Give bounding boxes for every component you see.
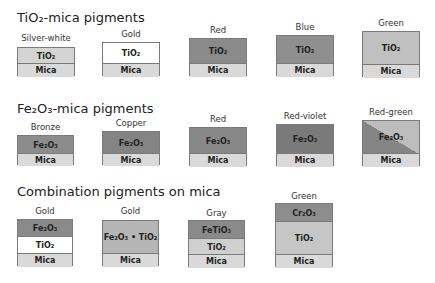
layer-coating: Fe₂O₃	[277, 125, 333, 154]
layer-label: Fe₂O₃	[293, 135, 317, 144]
layer-coating: Fe₂O₃	[190, 128, 246, 154]
layer-label: Mica	[208, 156, 229, 165]
layer-mica: Mica	[103, 253, 158, 267]
pigment-stack: Cr₂O₃TiO₂Mica	[275, 203, 333, 267]
layer-label: TiO₂	[122, 49, 141, 58]
layer-label: Mica	[121, 66, 142, 75]
layer-label: Mica	[208, 66, 229, 75]
pigment-label: Red-violet	[265, 111, 345, 121]
layer-coating: TiO₂	[276, 221, 332, 255]
pigment-stack: TiO₂Mica	[276, 35, 334, 76]
layer-mica: Mica	[276, 254, 332, 268]
pigment-stack: Fe₂O₃Mica	[189, 127, 247, 166]
layer-label: TiO₂	[296, 46, 315, 55]
layer-mica: Mica	[103, 153, 159, 166]
pigment-stack: Fe₂O₃Mica	[276, 124, 334, 166]
section-title-tio2-mica: TiO₂-mica pigments	[17, 10, 145, 25]
layer-coating: TiO₂	[18, 48, 74, 64]
layer-label: TiO₂	[207, 243, 226, 252]
pigment-stack: TiO₂Mica	[17, 47, 75, 76]
section-title-fe2o3-mica: Fe₂O₃-mica pigments	[17, 101, 154, 116]
pigment-label: Gold	[5, 206, 85, 216]
layer-label: Mica	[381, 156, 402, 165]
layer-mica: Mica	[18, 63, 74, 77]
layer-label: Mica	[120, 256, 141, 265]
layer-label: Mica	[121, 156, 142, 165]
pigment-label: Copper	[91, 118, 171, 128]
layer-label: Cr₂O₃	[292, 209, 316, 218]
layer-coating: TiO₂	[277, 36, 333, 64]
layer-mica: Mica	[189, 254, 244, 268]
pigment-label: Gold	[91, 206, 171, 216]
layer-label: Mica	[206, 257, 227, 266]
layer-coating: TiO₂	[190, 39, 246, 64]
layer-coating: Fe₂O₃	[103, 132, 159, 154]
layer-coating: Fe₂O₃ • TiO₂	[103, 221, 158, 254]
pigment-label: Silver-white	[6, 33, 86, 43]
pigment-label: Red	[178, 25, 258, 35]
layer-coating: Fe₂O₃	[363, 121, 419, 154]
layer-coating: TiO₂	[189, 238, 244, 255]
pigment-stack: Fe₂O₃Mica	[102, 131, 160, 165]
layer-mica: Mica	[103, 63, 159, 77]
layer-label: Mica	[381, 67, 402, 76]
layer-label: TiO₂	[209, 47, 228, 56]
pigment-stack: FeTiO₃TiO₂Mica	[188, 220, 245, 267]
pigment-stack: Fe₂O₃Mica	[17, 135, 74, 165]
layer-mica: Mica	[190, 63, 246, 77]
layer-mica: Mica	[18, 153, 73, 166]
pigment-stack: TiO₂Mica	[362, 31, 420, 77]
layer-label: Fe₂O₃	[33, 141, 57, 150]
layer-coating: FeTiO₃	[189, 221, 244, 239]
layer-label: Fe₂O₃	[206, 137, 230, 146]
layer-label: Mica	[295, 156, 316, 165]
layer-coating: TiO₂	[363, 32, 419, 65]
layer-label: TiO₂	[37, 52, 56, 61]
pigment-label: Gold	[91, 29, 171, 39]
layer-coating: Fe₂O₃	[18, 136, 73, 154]
layer-coating: TiO₂	[18, 236, 72, 254]
layer-label: Fe₂O₃	[379, 133, 403, 142]
pigment-stack: TiO₂Mica	[102, 42, 160, 76]
section-title-combination: Combination pigments on mica	[17, 184, 221, 199]
layer-label: Fe₂O₃ • TiO₂	[104, 233, 158, 242]
layer-label: Mica	[295, 66, 316, 75]
pigment-stack: Fe₂O₃TiO₂Mica	[17, 219, 73, 266]
layer-coating: Fe₂O₃	[18, 220, 72, 237]
layer-coating: TiO₂	[103, 43, 159, 64]
layer-label: Fe₂O₃	[33, 224, 57, 233]
layer-label: FeTiO₃	[202, 226, 231, 235]
layer-label: Fe₂O₃	[119, 139, 143, 148]
layer-label: TiO₂	[382, 44, 401, 53]
layer-label: Mica	[35, 256, 56, 265]
pigment-stack: Fe₂O₃Mica	[362, 120, 420, 166]
layer-label: Mica	[35, 156, 56, 165]
layer-mica: Mica	[277, 63, 333, 77]
layer-mica: Mica	[363, 64, 419, 78]
layer-mica: Mica	[18, 253, 72, 267]
pigment-label: Blue	[265, 22, 345, 32]
layer-mica: Mica	[363, 153, 419, 167]
pigment-label: Gray	[177, 208, 257, 218]
pigment-label: Green	[351, 18, 431, 28]
pigment-stack: Fe₂O₃ • TiO₂Mica	[102, 220, 159, 266]
layer-label: TiO₂	[36, 241, 55, 250]
layer-mica: Mica	[190, 153, 246, 167]
layer-coating: Cr₂O₃	[276, 204, 332, 222]
layer-label: TiO₂	[295, 234, 314, 243]
pigment-label: Red	[178, 114, 258, 124]
pigment-stack: TiO₂Mica	[189, 38, 247, 76]
pigment-label: Red-green	[351, 107, 431, 117]
pigment-label: Bronze	[6, 122, 86, 132]
layer-label: Mica	[36, 66, 57, 75]
pigment-label: Green	[264, 191, 344, 201]
layer-label: Mica	[294, 257, 315, 266]
layer-mica: Mica	[277, 153, 333, 167]
